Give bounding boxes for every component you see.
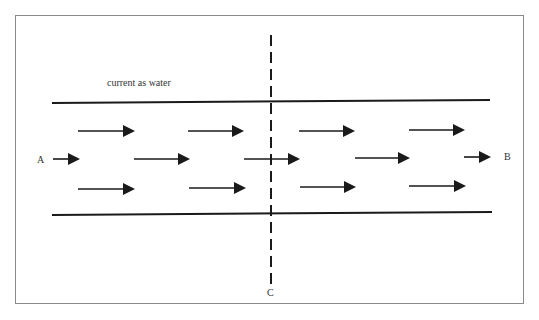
flow-arrow-icon xyxy=(188,125,244,137)
flow-arrow-icon xyxy=(300,181,356,193)
flow-arrow-icon xyxy=(464,151,491,163)
current-arrows xyxy=(53,124,491,195)
flow-diagram xyxy=(0,0,539,320)
flow-arrow-icon xyxy=(78,125,135,137)
point-a-label: A xyxy=(37,155,44,165)
current-label: current as water xyxy=(107,78,171,88)
flow-arrow-icon xyxy=(409,180,466,192)
flow-arrow-icon xyxy=(355,152,410,164)
flow-arrow-icon xyxy=(299,125,355,137)
flow-arrow-icon xyxy=(134,153,190,165)
flow-arrow-icon xyxy=(189,182,246,194)
flow-arrow-icon xyxy=(409,124,465,136)
channel-top-boundary xyxy=(52,100,490,103)
flow-arrow-icon xyxy=(78,183,135,195)
point-c-label: C xyxy=(267,288,274,298)
flow-arrow-icon xyxy=(53,153,80,165)
point-b-label: B xyxy=(504,152,511,162)
